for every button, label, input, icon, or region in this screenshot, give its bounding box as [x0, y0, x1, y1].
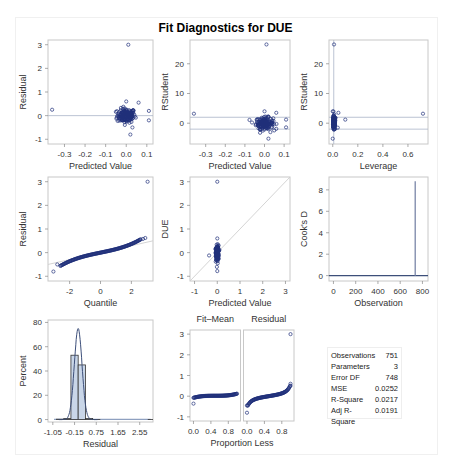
- y-tick-label: 0: [180, 119, 185, 128]
- x-axis-label: Predicted Value: [69, 161, 132, 171]
- y-tick-label: 1: [180, 225, 185, 234]
- plot-frame: [244, 330, 295, 421]
- y-tick-label: 0: [38, 416, 43, 425]
- x-tick-label: 0: [331, 287, 336, 296]
- stat-row-parameters: Parameters3: [331, 361, 398, 372]
- x-tick-label: 2: [129, 287, 134, 296]
- panel-title-fit-mean: Fit–Mean: [196, 314, 234, 324]
- y-tick-label: 1: [180, 372, 185, 381]
- x-tick-label: 0.0: [259, 150, 271, 159]
- y-tick-label: 20: [314, 60, 323, 69]
- plot-frame: [48, 40, 153, 144]
- y-tick-label: 60: [33, 343, 42, 352]
- x-tick-label: -2: [66, 287, 74, 296]
- x-tick-label: 0.75: [88, 428, 104, 437]
- y-tick-label: 0: [38, 249, 43, 258]
- y-tick-label: 2: [38, 201, 43, 210]
- y-axis-label: Percent: [18, 355, 28, 387]
- x-axis-label: Predicted Value: [209, 161, 272, 171]
- y-tick-label: 10: [314, 89, 323, 98]
- x-tick-label: 2: [261, 287, 266, 296]
- stat-row-adj-r-square: Adj R-Square0.0191: [331, 405, 398, 416]
- x-tick-label: 3: [283, 287, 288, 296]
- x-tick-label: 600: [394, 287, 408, 296]
- x-tick-label: 0.8: [223, 427, 235, 436]
- y-tick-label: 2: [180, 201, 185, 210]
- x-tick-label: -0.15: [65, 428, 84, 437]
- x-tick-label: 800: [416, 287, 430, 296]
- x-tick-label: -0.3: [199, 150, 213, 159]
- x-tick-label: -1: [191, 287, 199, 296]
- x-tick-label: 0.6: [402, 150, 414, 159]
- x-tick-label: -0.2: [78, 150, 92, 159]
- y-tick-label: 3: [38, 41, 43, 50]
- x-tick-label: 0.4: [377, 150, 389, 159]
- x-tick-label: 0.4: [205, 427, 217, 436]
- y-tick-label: 2: [38, 64, 43, 73]
- y-tick-label: 0: [319, 119, 324, 128]
- x-tick-label: 400: [371, 287, 385, 296]
- y-tick-label: 3: [180, 178, 185, 187]
- y-axis-label: RStudent: [160, 73, 170, 111]
- x-axis-label: Quantile: [84, 298, 118, 308]
- plot-residual-fit-spread: -101230.00.40.80.00.40.8Proportion LessF…: [177, 314, 294, 448]
- x-tick-label: 1: [238, 287, 243, 296]
- x-tick-label: 0.4: [259, 427, 271, 436]
- y-tick-label: 20: [175, 60, 184, 69]
- y-tick-label: -1: [177, 413, 185, 422]
- x-tick-label: 0.0: [188, 427, 200, 436]
- plot-frame: [190, 330, 241, 421]
- y-tick-label: 40: [33, 367, 42, 376]
- x-tick-label: 2.55: [132, 428, 148, 437]
- y-tick-label: 80: [33, 318, 42, 327]
- y-tick-label: 2: [319, 250, 324, 259]
- y-tick-label: -1: [177, 272, 185, 281]
- y-tick-label: 3: [38, 178, 43, 187]
- stat-row-mse: MSE0.0252: [331, 383, 398, 394]
- x-tick-label: 0: [215, 287, 220, 296]
- y-tick-label: 8: [319, 186, 324, 195]
- x-tick-label: 0.0: [327, 150, 339, 159]
- y-tick-label: -1: [35, 135, 43, 144]
- plot-rstudent-vs-predicted: 01020RStudent-0.3-0.2-0.10.00.1Predicted…: [160, 40, 290, 171]
- x-tick-label: 0.1: [279, 150, 291, 159]
- plot-frame: [329, 177, 428, 281]
- plot-qq-residual: -10123Residual-202Quantile: [18, 177, 153, 308]
- x-tick-label: -0.2: [218, 150, 232, 159]
- y-axis-label: DUE: [160, 219, 170, 238]
- plot-cooks-d: 02468Cook's D0200400600800Observation: [299, 177, 430, 308]
- plot-rstudent-vs-leverage: 01020RStudent0.00.20.40.6Leverage: [299, 40, 428, 171]
- x-tick-label: 0: [98, 287, 103, 296]
- x-tick-label: 0.0: [241, 427, 253, 436]
- y-tick-label: 0: [319, 272, 324, 281]
- plot-residual-histogram: 020406080Percent-1.05-0.150.751.652.55Re…: [18, 318, 155, 449]
- plot-residual-vs-predicted: -10123Residual-0.3-0.2-0.10.00.1Predicte…: [18, 40, 153, 171]
- x-tick-label: -0.3: [58, 150, 72, 159]
- stat-row-r-square: R-Square0.0217: [331, 394, 398, 405]
- y-tick-label: 0: [38, 112, 43, 121]
- y-tick-label: 6: [319, 207, 324, 216]
- plot-observed-vs-predicted: -10123DUE-10123Predicted Value: [160, 177, 290, 308]
- stat-row-error-df: Error DF748: [331, 372, 398, 383]
- x-tick-label: 0.8: [276, 427, 288, 436]
- y-tick-label: 20: [33, 391, 42, 400]
- x-tick-label: 0.1: [141, 150, 153, 159]
- x-axis-label: Observation: [354, 298, 403, 308]
- x-axis-label: Predicted Value: [209, 298, 272, 308]
- x-tick-label: -0.1: [238, 150, 252, 159]
- plot-frame: [48, 320, 153, 422]
- x-tick-label: 200: [349, 287, 363, 296]
- x-tick-label: -0.1: [99, 150, 113, 159]
- y-axis-label: Cook's D: [299, 210, 309, 247]
- x-tick-label: 0.2: [352, 150, 364, 159]
- panel-title-residual: Residual: [251, 314, 286, 324]
- y-axis-label: Residual: [18, 211, 28, 246]
- fit-statistics-table: Observations751 Parameters3 Error DF748 …: [327, 347, 402, 419]
- y-tick-label: 1: [38, 225, 43, 234]
- x-axis-label: Leverage: [360, 161, 398, 171]
- x-tick-label: -1.05: [44, 428, 63, 437]
- y-tick-label: 4: [319, 229, 324, 238]
- y-tick-label: -1: [35, 272, 43, 281]
- plot-frame: [329, 40, 428, 144]
- x-tick-label: 1.65: [110, 428, 126, 437]
